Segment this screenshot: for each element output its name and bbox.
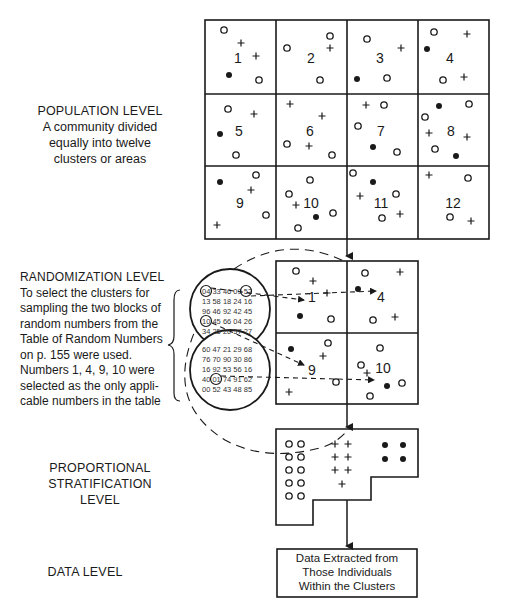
brace xyxy=(168,290,180,401)
svg-text:Within the Clusters: Within the Clusters xyxy=(299,580,396,592)
svg-text:Those Individuals: Those Individuals xyxy=(302,566,392,578)
svg-text:40 01 74 91 62: 40 01 74 91 62 xyxy=(202,375,252,384)
cluster-6-label: 6 xyxy=(306,123,314,139)
cluster-10-label: 10 xyxy=(303,195,319,211)
cluster-9-label: 9 xyxy=(236,195,244,211)
svg-text:76 70 90 30 86: 76 70 90 30 86 xyxy=(202,355,252,364)
cluster-4-label: 4 xyxy=(446,50,454,66)
cluster-5-label: 5 xyxy=(235,123,243,139)
population-individuals xyxy=(214,27,475,231)
stratified-open-circles xyxy=(286,441,304,499)
cluster-1-label: 1 xyxy=(234,50,242,66)
cluster-11-label: 11 xyxy=(374,195,389,211)
cluster-3-label: 3 xyxy=(376,50,384,66)
selected-grid xyxy=(276,261,418,404)
selected-cluster-10: 10 xyxy=(375,360,391,376)
diagram-canvas: 1 2 3 4 5 6 7 8 9 10 11 12 xyxy=(0,0,505,613)
svg-text:96 46 92 42 45: 96 46 92 42 45 xyxy=(202,307,252,316)
svg-text:Data Extracted from: Data Extracted from xyxy=(296,552,398,564)
cluster-7-label: 7 xyxy=(377,123,385,139)
cluster-12-label: 12 xyxy=(445,195,461,211)
svg-text:00 52 43 48 85: 00 52 43 48 85 xyxy=(202,385,252,394)
cluster-8-label: 8 xyxy=(447,123,455,139)
selected-cluster-4: 4 xyxy=(377,289,385,305)
svg-text:16 92 53 56 16: 16 92 53 56 16 xyxy=(202,365,252,374)
svg-text:34 25 20 57 27: 34 25 20 57 27 xyxy=(202,327,252,336)
stratified-plus-signs xyxy=(332,441,352,488)
cluster-2-label: 2 xyxy=(307,50,315,66)
data-box-text: Data Extracted from Those Individuals Wi… xyxy=(296,552,398,592)
selected-cluster-1: 1 xyxy=(308,289,316,305)
svg-text:60 47 21 29 68: 60 47 21 29 68 xyxy=(202,345,252,354)
selected-cluster-9: 9 xyxy=(308,362,316,378)
stratified-filled-dots xyxy=(382,442,406,462)
svg-text:13 58 18 24 16: 13 58 18 24 16 xyxy=(202,297,252,306)
